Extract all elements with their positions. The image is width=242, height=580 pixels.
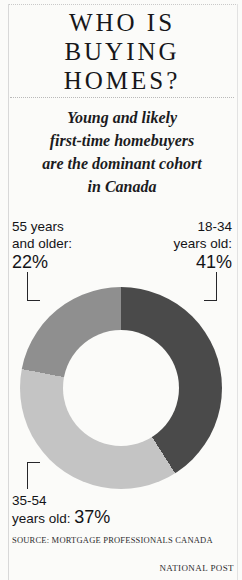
- donut-chart: [20, 287, 222, 489]
- subtitle-line-2: first-time homebuyers: [10, 129, 234, 152]
- donut-center-hole: [63, 330, 179, 446]
- callout-label-35-54: 35-54 years old: 37%: [12, 492, 110, 527]
- publication-credit: NATIONAL POST: [12, 563, 234, 573]
- callout-55-plus-percent: 22%: [12, 252, 72, 273]
- callout-55-plus-line-1: 55 years: [12, 218, 72, 235]
- divider-below-title: [10, 97, 234, 98]
- callout-55-plus-line-2: and older:: [12, 235, 72, 252]
- callout-label-18-34: 18-34 years old: 41%: [173, 218, 232, 273]
- subtitle: Young and likely first-time homebuyers a…: [10, 106, 234, 198]
- callout-35-54-percent: 37%: [74, 507, 110, 527]
- source-note: SOURCE: MORTGAGE PROFESSIONALS CANADA: [12, 535, 234, 545]
- callout-label-55-plus: 55 years and older: 22%: [12, 218, 72, 273]
- subtitle-line-1: Young and likely: [10, 106, 234, 129]
- title-line-2: BUYING: [10, 37, 234, 66]
- page-border-top: [8, 4, 238, 5]
- leader-line-35-54: [27, 462, 40, 489]
- page-border-left: [8, 4, 9, 580]
- callout-18-34-percent: 41%: [173, 252, 232, 273]
- title-line-3: HOMES?: [10, 66, 234, 95]
- subtitle-line-4: in Canada: [10, 175, 234, 198]
- callout-18-34-line-2: years old:: [173, 235, 232, 252]
- page-border-right: [237, 4, 238, 580]
- callout-35-54-line-2: years old:: [12, 511, 74, 526]
- title-line-1: WHO IS: [10, 8, 234, 37]
- subtitle-line-3: are the dominant cohort: [10, 152, 234, 175]
- callout-18-34-line-1: 18-34: [173, 218, 232, 235]
- infographic-panel: WHO IS BUYING HOMES? Young and likely fi…: [0, 0, 242, 580]
- page-title: WHO IS BUYING HOMES?: [10, 8, 234, 95]
